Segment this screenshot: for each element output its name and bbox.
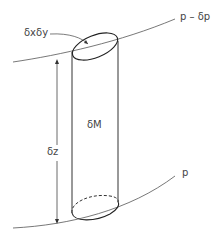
area-label: δxδy <box>24 28 48 38</box>
upper-pressure-surface <box>13 19 175 62</box>
top-surface-label: p – δp <box>180 12 210 22</box>
height-label: δz <box>47 147 58 157</box>
top-ellipse <box>69 27 122 65</box>
lower-pressure-surface <box>13 176 175 228</box>
bottom-ellipse-back <box>72 195 118 213</box>
area-leader-arrowhead <box>84 40 88 44</box>
area-leader-line <box>50 34 88 44</box>
bottom-surface-label: p <box>182 168 188 178</box>
bottom-ellipse-front <box>72 202 119 220</box>
mass-label: δM <box>87 120 102 130</box>
height-arrowhead-top <box>55 59 59 64</box>
